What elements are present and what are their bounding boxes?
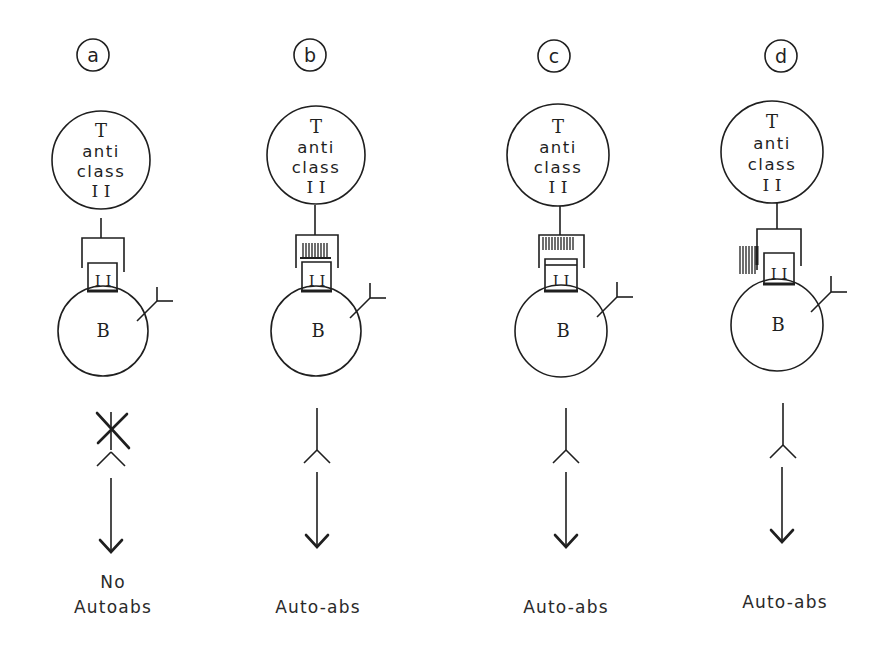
panel-label: b — [304, 44, 316, 66]
panel-label: a — [87, 44, 99, 66]
t-cell-line3: class — [748, 155, 796, 174]
panel-label: d — [775, 45, 787, 67]
outcome-line2: Autoabs — [74, 597, 152, 617]
surface-antibody-icon — [137, 287, 173, 321]
t-cell-line4: I I — [763, 175, 782, 195]
b-cell-label: B — [311, 320, 324, 341]
b-cell-label: B — [96, 320, 109, 341]
t-cell-line1: T — [766, 111, 778, 132]
t-cell-line4: I I — [307, 177, 326, 197]
t-cell-line2: anti — [753, 134, 791, 153]
mhc-label: I I — [553, 272, 570, 290]
arrow-down-icon — [100, 478, 122, 552]
t-cell-line3: class — [77, 162, 125, 181]
arrow-down-icon — [771, 467, 793, 542]
b-cell-label: B — [771, 314, 784, 335]
b-cell-label: B — [556, 320, 569, 341]
t-cell-line4: I I — [549, 177, 568, 197]
outcome-line2: Auto-abs — [275, 597, 361, 617]
t-cell-line2: anti — [82, 142, 120, 161]
t-cell-line1: T — [552, 116, 564, 137]
secreted-antibody-icon — [553, 408, 579, 463]
secreted-antibody-icon — [770, 403, 796, 458]
arrow-down-icon — [306, 472, 328, 547]
hatched-antigen — [740, 246, 757, 274]
blocked-secretion-icon — [97, 412, 129, 466]
hatched-antigen — [543, 237, 573, 250]
panel-c: c T anti class I I I I B — [507, 40, 633, 617]
outcome-line2: Auto-abs — [523, 597, 609, 617]
t-cell-line2: anti — [539, 138, 577, 157]
t-cell-line1: T — [310, 116, 322, 137]
surface-antibody-icon — [597, 282, 633, 317]
surface-antibody-icon — [811, 276, 847, 312]
t-cell-line2: anti — [297, 138, 335, 157]
panel-b: b T anti class I I I I B — [267, 39, 386, 617]
arrow-down-icon — [555, 472, 577, 547]
outcome-line2: Auto-abs — [742, 592, 828, 612]
t-cell-line1: T — [95, 120, 107, 141]
panel-a: a T anti class I I I I B — [52, 39, 173, 617]
panel-label: c — [549, 45, 559, 67]
t-cell-line3: class — [534, 158, 582, 177]
mhc-label: I I — [95, 272, 112, 290]
outcome-line1: No — [100, 572, 126, 592]
t-cell-line4: I I — [92, 181, 111, 201]
secreted-antibody-icon — [304, 408, 330, 463]
panel-d: d T anti class I I I I B — [721, 40, 847, 612]
t-cell-line3: class — [292, 158, 340, 177]
surface-antibody-icon — [350, 283, 386, 318]
hatched-antigen — [300, 243, 331, 258]
